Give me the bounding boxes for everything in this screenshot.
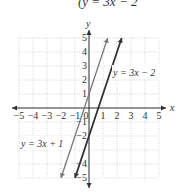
x-tick-label: −2 [56, 110, 67, 121]
x-tick-label: 1 [101, 110, 106, 121]
y-tick-label: −5 [76, 172, 87, 183]
y-axis-label: y [85, 18, 91, 29]
y-tick-label: 3 [82, 60, 87, 71]
x-tick-label: −4 [28, 110, 39, 121]
y-tick-label: 2 [82, 74, 87, 85]
y-tick-label: 1 [82, 88, 87, 99]
axes: xy [12, 18, 175, 188]
annotation-line2: y = 3x − 2 [112, 67, 155, 78]
y-tick-label: 5 [82, 32, 87, 43]
x-tick-label: 3 [129, 110, 134, 121]
annotation-line1: y = 3x + 1 [20, 138, 63, 149]
x-tick-label: −3 [42, 110, 53, 121]
y-tick-label: 4 [82, 46, 87, 57]
y-axis-arrow-icon [87, 183, 92, 188]
y-tick-label: −2 [76, 130, 87, 141]
coordinate-plane: xy −5−4−3−2−112345054321−1−2−4−5 y = 3x … [0, 0, 188, 192]
y-axis-arrow-icon [87, 30, 92, 35]
x-tick-label: 4 [143, 110, 148, 121]
x-tick-label: −5 [14, 110, 25, 121]
x-axis-label: x [169, 102, 175, 113]
x-axis-arrow-icon [161, 106, 166, 111]
x-tick-label: 5 [157, 110, 162, 121]
x-tick-label: 2 [115, 110, 120, 121]
